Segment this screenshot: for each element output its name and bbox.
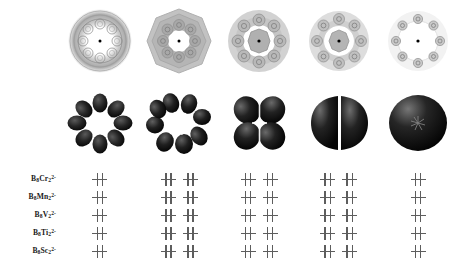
energy-level-bar — [342, 179, 357, 180]
mo-level-marker — [183, 209, 198, 222]
4-lobed-delta-orbital-icon — [226, 92, 292, 154]
spin-down-arrow — [330, 245, 331, 258]
occ-cell-col2 — [140, 170, 220, 188]
energy-level-bar — [92, 197, 107, 198]
mo-level-marker — [183, 173, 198, 186]
8-lobed-orbital-phase-b-icon — [146, 92, 212, 154]
spin-down-arrow — [250, 191, 251, 204]
occ-cell-col4 — [299, 170, 379, 188]
mo-level-marker — [161, 173, 176, 186]
spin-up-arrow — [415, 245, 416, 258]
spin-up-arrow — [346, 209, 347, 222]
spin-down-arrow — [272, 173, 273, 186]
energy-level-bar — [183, 215, 198, 216]
energy-level-bar — [92, 251, 107, 252]
mo-level-marker — [161, 191, 176, 204]
2-lobed-pi-orbital-icon — [306, 92, 372, 154]
spin-down-arrow — [330, 191, 331, 204]
spherical-sigma-orbital-icon — [385, 92, 451, 154]
spin-up-arrow — [324, 173, 325, 186]
energy-level-bar — [263, 251, 278, 252]
spin-down-arrow — [330, 227, 331, 240]
mo-level-marker — [342, 191, 357, 204]
orbital-cell-3 — [219, 88, 299, 158]
spin-down-arrow — [192, 173, 193, 186]
spin-down-arrow — [250, 227, 251, 240]
mo-level-marker — [183, 227, 198, 240]
molecular-orbital-figure: B8Cr22- B8Mn22- B8V22- — [0, 0, 458, 275]
energy-level-bar — [342, 215, 357, 216]
spin-down-arrow — [192, 209, 193, 222]
occ-cell-col5 — [378, 206, 458, 224]
spin-up-arrow — [187, 173, 188, 186]
mo-level-marker — [92, 227, 107, 240]
mo-level-marker — [263, 191, 278, 204]
energy-level-bar — [320, 215, 335, 216]
table-row: B8Mn22- — [0, 188, 458, 206]
energy-level-bar — [320, 233, 335, 234]
energy-level-bar — [161, 251, 176, 252]
spin-up-arrow — [267, 191, 268, 204]
contour-cell-5 — [378, 2, 458, 80]
mo-level-marker — [411, 191, 426, 204]
spin-up-arrow — [415, 191, 416, 204]
spin-up-arrow — [415, 173, 416, 186]
spin-down-arrow — [420, 227, 421, 240]
energy-level-bar — [411, 233, 426, 234]
occupancy-cells-b8ti2 — [60, 224, 458, 242]
spin-up-arrow — [97, 209, 98, 222]
spin-up-arrow — [324, 227, 325, 240]
spin-down-arrow — [352, 173, 353, 186]
spin-up-arrow — [346, 191, 347, 204]
spin-up-arrow — [165, 191, 166, 204]
spin-down-arrow — [102, 227, 103, 240]
occ-cell-col4 — [299, 242, 379, 260]
spin-down-arrow — [420, 173, 421, 186]
energy-level-bar — [183, 233, 198, 234]
mo-level-marker — [241, 227, 256, 240]
spin-down-arrow — [352, 227, 353, 240]
spin-up-arrow — [97, 227, 98, 240]
spin-down-arrow — [102, 245, 103, 258]
occupancy-cells-b8mn2 — [60, 188, 458, 206]
energy-level-bar — [241, 215, 256, 216]
spin-down-arrow — [272, 209, 273, 222]
spin-down-arrow — [102, 209, 103, 222]
occ-cell-col1 — [60, 170, 140, 188]
spin-up-arrow — [245, 173, 246, 186]
spin-up-arrow — [415, 227, 416, 240]
occ-cell-col5 — [378, 224, 458, 242]
occupancy-cells-b8v2 — [60, 206, 458, 224]
mo-level-marker — [183, 191, 198, 204]
energy-level-bar — [411, 215, 426, 216]
spin-down-arrow — [250, 245, 251, 258]
spin-down-arrow — [420, 209, 421, 222]
occ-cell-col1 — [60, 242, 140, 260]
spin-down-arrow — [272, 191, 273, 204]
energy-level-bar — [263, 215, 278, 216]
energy-level-bar — [161, 197, 176, 198]
mo-level-marker — [241, 191, 256, 204]
spin-up-arrow — [346, 173, 347, 186]
species-label-b8cr2: B8Cr22- — [0, 174, 60, 183]
spin-up-arrow — [267, 227, 268, 240]
occ-cell-col3 — [219, 224, 299, 242]
energy-level-bar — [320, 251, 335, 252]
spin-up-arrow — [267, 245, 268, 258]
occ-cell-col2 — [140, 206, 220, 224]
energy-level-bar — [411, 197, 426, 198]
spin-down-arrow — [352, 245, 353, 258]
8-lobed-orbital-icon — [67, 92, 133, 154]
spin-up-arrow — [165, 209, 166, 222]
energy-level-bar — [411, 251, 426, 252]
spin-down-arrow — [192, 227, 193, 240]
spin-up-arrow — [187, 191, 188, 204]
orbital-occupancy-table: B8Cr22- B8Mn22- B8V22- — [0, 170, 458, 270]
energy-level-bar — [92, 215, 107, 216]
spin-up-arrow — [245, 191, 246, 204]
energy-level-bar — [342, 233, 357, 234]
density-contour-ringed-icon — [224, 6, 294, 76]
energy-level-bar — [342, 251, 357, 252]
energy-level-bar — [92, 179, 107, 180]
energy-level-bar — [161, 179, 176, 180]
